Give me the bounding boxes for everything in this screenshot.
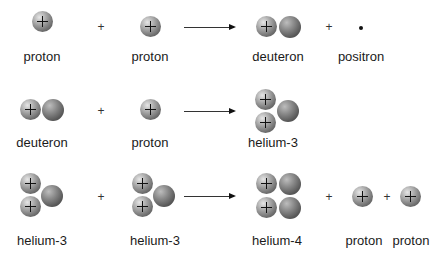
positron-icon [359, 26, 363, 30]
proton-icon [256, 197, 277, 218]
plus-sign: + [383, 191, 390, 203]
proton-icon [20, 99, 41, 120]
proton-icon [352, 186, 373, 207]
proton-icon [255, 112, 276, 133]
neutron-icon [153, 185, 175, 207]
proton-icon [140, 16, 161, 37]
label-proton: proton [132, 49, 169, 65]
plus-sign: + [97, 191, 104, 203]
proton-icon [140, 99, 161, 120]
label-positron: positron [338, 49, 384, 65]
label-deuteron: deuteron [16, 135, 67, 151]
proton-icon [400, 186, 421, 207]
proton-icon [256, 173, 277, 194]
label-helium-3: helium-3 [248, 135, 298, 151]
label-helium-3: helium-3 [17, 233, 67, 249]
neutron-icon [277, 100, 299, 122]
proton-icon [255, 89, 276, 110]
reaction-arrow-icon [184, 111, 234, 112]
proton-icon [32, 11, 53, 32]
label-helium-3: helium-3 [130, 233, 180, 249]
reaction-arrow-icon [184, 27, 234, 28]
proton-icon [20, 173, 41, 194]
proton-icon [132, 196, 153, 217]
proton-icon [132, 173, 153, 194]
proton-icon [20, 196, 41, 217]
label-deuteron: deuteron [252, 49, 303, 65]
plus-sign: + [325, 21, 332, 33]
label-proton: proton [393, 233, 430, 249]
plus-sign: + [97, 105, 104, 117]
label-proton: proton [24, 49, 61, 65]
label-proton: proton [132, 135, 169, 151]
neutron-icon [279, 16, 301, 38]
reaction-arrow-icon [184, 196, 234, 197]
neutron-icon [279, 197, 301, 219]
neutron-icon [279, 173, 301, 195]
label-helium-4: helium-4 [252, 233, 302, 249]
neutron-icon [42, 99, 64, 121]
plus-sign: + [325, 191, 332, 203]
label-proton: proton [346, 233, 383, 249]
plus-sign: + [97, 21, 104, 33]
proton-icon [256, 16, 277, 37]
neutron-icon [41, 185, 63, 207]
